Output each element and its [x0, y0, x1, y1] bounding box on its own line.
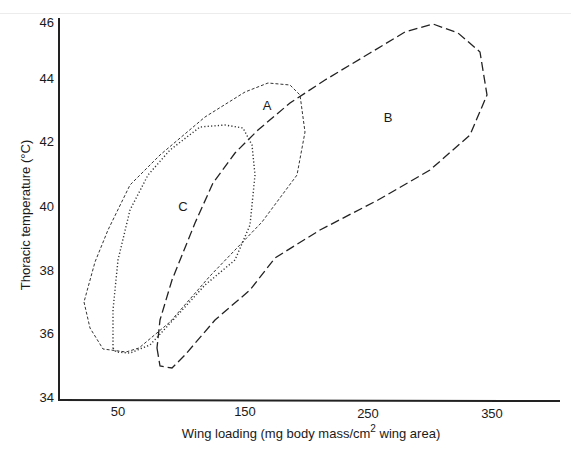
y-tick-34: 34	[40, 390, 54, 405]
x-tick-labels: 50 150 250 350	[111, 404, 503, 421]
x-tick-50: 50	[111, 404, 125, 419]
x-axis-title-main: Wing loading (mg body mass/cm	[182, 426, 371, 441]
region-b-label: B	[384, 110, 393, 125]
chart: 46 44 42 40 38 36 34 50 150 250 350 Thor…	[0, 0, 571, 457]
x-axis-title: Wing loading (mg body mass/cm2 wing area…	[182, 423, 440, 441]
y-tick-36: 36	[40, 326, 54, 341]
x-axis	[58, 400, 560, 401]
x-tick-350: 350	[481, 406, 503, 421]
region-c-outline	[113, 125, 255, 353]
y-tick-42: 42	[40, 134, 54, 149]
y-tick-38: 38	[40, 263, 54, 278]
region-a-label: A	[263, 98, 272, 113]
region-c-label: C	[178, 199, 187, 214]
y-tick-46: 46	[40, 15, 54, 30]
y-tick-40: 40	[40, 199, 54, 214]
x-tick-150: 150	[234, 404, 256, 419]
region-b-outline	[157, 24, 487, 368]
y-tick-labels: 46 44 42 40 38 36 34	[40, 15, 54, 405]
y-axis-title: Thoracic temperature (°C)	[18, 140, 33, 290]
x-tick-250: 250	[357, 406, 379, 421]
y-tick-44: 44	[40, 71, 54, 86]
region-a-outline	[84, 83, 305, 352]
x-axis-title-tail: wing area)	[376, 426, 440, 441]
